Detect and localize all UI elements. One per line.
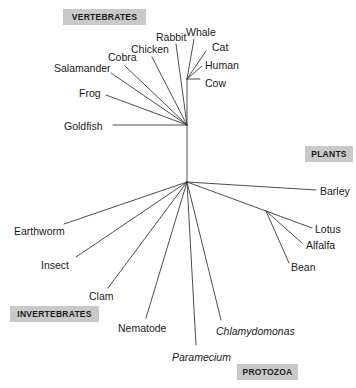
branch-nematode (146, 182, 187, 318)
group-label-invertebrates: INVERTEBRATES (10, 306, 99, 322)
taxon-label-cow: Cow (205, 78, 226, 89)
taxon-label-cat: Cat (212, 42, 228, 53)
branch-chicken (152, 57, 187, 125)
branch-lotus (266, 211, 312, 228)
taxon-label-human: Human (205, 60, 239, 71)
taxon-label-chlamydomonas: Chlamydomonas (216, 326, 295, 337)
taxon-label-earthworm: Earthworm (14, 226, 65, 237)
taxon-label-cobra: Cobra (108, 52, 137, 63)
branch-clam (108, 182, 187, 288)
taxon-label-paramecium: Paramecium (172, 352, 231, 363)
branch-chlamydomonas (187, 182, 221, 320)
taxon-label-barley: Barley (320, 186, 350, 197)
taxon-label-lotus: Lotus (315, 224, 341, 235)
branch-earthworm (64, 182, 187, 224)
group-label-plants: PLANTS (305, 146, 353, 162)
group-label-vertebrates: VERTEBRATES (63, 9, 146, 25)
branch-bean (266, 211, 289, 263)
group-label-protozoa: PROTOZOA (237, 364, 298, 380)
taxon-label-insect: Insect (41, 260, 69, 271)
taxon-label-nematode: Nematode (118, 323, 166, 334)
taxon-label-salamander: Salamander (54, 63, 111, 74)
branch-salamander (111, 73, 187, 125)
taxon-label-bean: Bean (291, 262, 316, 273)
branch-cobra (125, 66, 187, 125)
branch-rabbit (176, 44, 187, 125)
branch-whale (187, 39, 194, 79)
branch-frog (106, 95, 187, 125)
taxon-label-alfalfa: Alfalfa (306, 240, 335, 251)
taxon-label-clam: Clam (89, 291, 114, 302)
taxon-label-rabbit: Rabbit (156, 32, 186, 43)
branch-insect (76, 182, 187, 257)
taxon-label-goldfish: Goldfish (64, 121, 103, 132)
taxon-label-whale: Whale (186, 27, 216, 38)
phylogenetic-tree-figure: WhaleCatHumanCowRabbitChickenCobraSalama… (0, 0, 356, 388)
tree-branches-svg (0, 0, 356, 388)
branch-paramecium (187, 182, 196, 345)
branch-alfalfa (266, 211, 302, 243)
taxon-label-frog: Frog (79, 88, 101, 99)
